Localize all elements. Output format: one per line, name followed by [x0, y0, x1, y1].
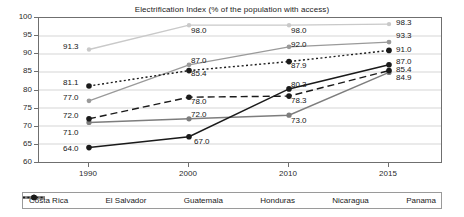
plot-area: 91.3 98.0 98.0 98.3 77.0 87.0 92.0 93.3 …: [38, 17, 442, 163]
chart-container: Electrification Index (% of the populati…: [0, 0, 464, 217]
x-tick-label: 2000: [158, 169, 218, 178]
data-label-el-salvador-2015: 93.3: [396, 31, 412, 40]
series-costa-rica: [87, 22, 391, 52]
data-label-honduras-2000: 78.0: [191, 97, 207, 106]
x-tick-label: 1990: [58, 169, 118, 178]
data-label-nicaragua-2015: 84.9: [396, 73, 412, 82]
x-tick-mark: [388, 163, 389, 167]
plot-svg: [39, 18, 441, 162]
data-label-costa-rica-1990: 91.3: [63, 42, 79, 51]
legend-label-guatemala: Guatemala: [184, 196, 223, 205]
legend-item-el-salvador[interactable]: El Salvador: [104, 196, 146, 205]
data-label-costa-rica-2010: 98.0: [291, 26, 307, 35]
x-tick-label: 2010: [258, 169, 318, 178]
data-label-panama-2000: 85.4: [191, 69, 207, 78]
legend-item-panama[interactable]: Panama: [405, 196, 436, 205]
data-label-panama-2015: 91.0: [396, 45, 412, 54]
data-label-guatemala-1990: 64.0: [63, 144, 79, 153]
y-tick-label: 80: [2, 85, 32, 94]
x-tick-mark: [88, 163, 89, 167]
data-label-guatemala-2010: 80.3: [291, 80, 307, 89]
legend-label-honduras: Honduras: [260, 196, 295, 205]
data-label-nicaragua-2000: 72.0: [191, 110, 207, 119]
x-tick-mark: [188, 163, 189, 167]
y-tick-label: 75: [2, 103, 32, 112]
data-label-panama-2010: 87.9: [291, 61, 307, 70]
y-tick-label: 60: [2, 157, 32, 166]
data-label-el-salvador-2010: 92.0: [291, 40, 307, 49]
x-tick-label: 2015: [358, 169, 418, 178]
y-tick-label: 100: [2, 12, 32, 21]
data-label-guatemala-2000: 67.0: [194, 137, 210, 146]
data-label-honduras-2010: 78.3: [291, 96, 307, 105]
data-label-honduras-1990: 72.0: [63, 111, 79, 120]
legend-item-honduras[interactable]: Honduras: [259, 196, 295, 205]
data-label-el-salvador-2000: 87.0: [191, 56, 207, 65]
x-tick-mark: [288, 163, 289, 167]
chart-legend: Costa Rica El Salvador Guatemala Hondura…: [22, 192, 442, 209]
y-tick-label: 95: [2, 30, 32, 39]
legend-marker-panama-icon: [23, 193, 45, 202]
legend-item-guatemala[interactable]: Guatemala: [183, 196, 223, 205]
chart-title: Electrification Index (% of the populati…: [0, 5, 464, 14]
data-label-costa-rica-2015: 98.3: [396, 18, 412, 27]
data-label-nicaragua-1990: 71.0: [63, 128, 79, 137]
legend-label-panama: Panama: [406, 196, 436, 205]
data-label-nicaragua-2010: 73.0: [291, 116, 307, 125]
data-label-costa-rica-2000: 98.0: [191, 26, 207, 35]
legend-label-el-salvador: El Salvador: [105, 196, 146, 205]
data-label-guatemala-2015: 87.0: [396, 57, 412, 66]
series-el-salvador: [87, 40, 392, 104]
y-tick-label: 90: [2, 48, 32, 57]
data-label-el-salvador-1990: 77.0: [63, 93, 79, 102]
y-tick-label: 65: [2, 139, 32, 148]
legend-item-nicaragua[interactable]: Nicaragua: [331, 196, 368, 205]
y-tick-label: 70: [2, 121, 32, 130]
gridlines: [39, 36, 441, 144]
series-nicaragua: [86, 70, 391, 125]
y-tick-label: 85: [2, 66, 32, 75]
data-label-panama-1990: 81.1: [63, 78, 79, 87]
legend-label-nicaragua: Nicaragua: [332, 196, 368, 205]
series-guatemala: [86, 62, 392, 150]
